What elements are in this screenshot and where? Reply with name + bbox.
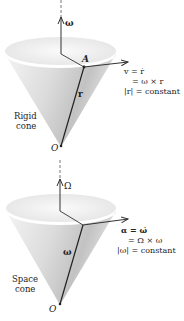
rigid-cone-label-1: Rigid [14,111,37,121]
space-cone-label-2: cone [15,284,35,294]
omega-vector-label: ω [63,247,72,257]
space-cone-label-1: Space [12,274,38,284]
equation-top-1: v = ṙ [123,67,144,76]
equation-bottom-2: = Ω × ω [128,236,163,245]
point-a-label: A [81,54,89,64]
origin-dot-bottom [59,303,62,306]
equation-bottom-3: |ω| = constant [117,246,176,255]
top-panel-rigid-cone: ω A r O Rigid cone v = ṙ = ω × r |r| = c… [5,0,181,153]
omega-label: ω [65,18,74,28]
r-label: r [78,89,83,99]
origin-label-top: O [51,143,59,153]
origin-label-bottom: O [49,304,57,314]
rigid-cone-label-2: cone [16,121,36,131]
origin-dot-top [60,145,63,148]
bottom-panel-space-cone: Ω ω O Space cone α = ω̇ = Ω × ω |ω| = co… [6,160,176,314]
point-a-dot [83,66,86,69]
equation-top-3: |r| = constant [124,87,181,96]
top-cone-body [5,54,116,147]
equation-bottom-1: α = ω̇ [121,225,147,235]
equation-top-2: = ω × r [132,77,164,86]
rigid-body-cone-diagram: ω A r O Rigid cone v = ṙ = ω × r |r| = c… [0,0,184,321]
bottom-cone-base [6,194,116,222]
big-omega-label: Ω [64,181,71,191]
